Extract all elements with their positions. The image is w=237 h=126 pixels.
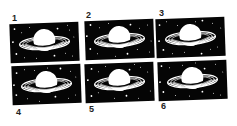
option-number: 4 <box>16 108 21 117</box>
saturn-icon <box>157 60 227 101</box>
option-number: 2 <box>86 11 91 20</box>
saturn-image <box>84 19 154 60</box>
saturn-image <box>11 64 81 105</box>
saturn-image <box>9 22 79 63</box>
saturn-icon <box>84 62 154 103</box>
saturn-icon <box>11 64 81 105</box>
saturn-icon <box>155 17 225 58</box>
saturn-image <box>157 60 227 101</box>
saturn-image <box>155 17 225 58</box>
option-number: 6 <box>161 102 166 111</box>
option-number: 5 <box>89 105 94 114</box>
saturn-icon <box>9 22 79 63</box>
option-number: 1 <box>12 14 17 23</box>
saturn-icon <box>84 19 154 60</box>
saturn-image <box>84 62 154 103</box>
option-number: 3 <box>159 9 164 18</box>
